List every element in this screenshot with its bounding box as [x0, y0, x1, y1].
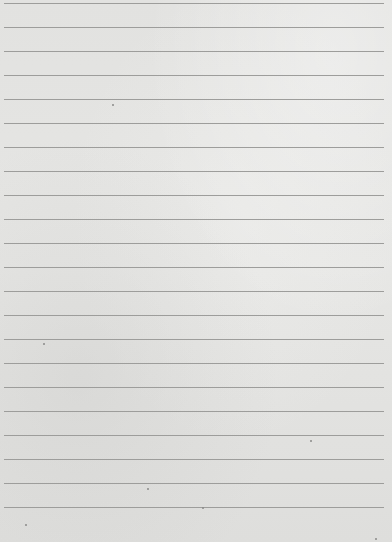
paper-speck: [310, 440, 312, 442]
paper-speck: [202, 507, 204, 509]
ruled-line: [4, 195, 384, 196]
paper-speck: [112, 104, 114, 106]
lined-paper: [0, 0, 392, 542]
ruled-line: [4, 507, 384, 508]
ruled-line: [4, 243, 384, 244]
ruled-line: [4, 435, 384, 436]
ruled-line: [4, 387, 384, 388]
ruled-line: [4, 315, 384, 316]
ruled-line: [4, 147, 384, 148]
ruled-line: [4, 291, 384, 292]
ruled-line: [4, 267, 384, 268]
ruled-line: [4, 75, 384, 76]
ruled-line: [4, 27, 384, 28]
ruled-line: [4, 171, 384, 172]
ruled-line: [4, 339, 384, 340]
ruled-line: [4, 363, 384, 364]
paper-speck: [25, 524, 27, 526]
ruled-line: [4, 411, 384, 412]
paper-speck: [147, 488, 149, 490]
ruled-line: [4, 483, 384, 484]
ruled-line: [4, 219, 384, 220]
ruled-line: [4, 99, 384, 100]
paper-speck: [375, 538, 377, 540]
ruled-line: [4, 459, 384, 460]
ruled-line: [4, 3, 384, 4]
ruled-line: [4, 51, 384, 52]
ruled-line: [4, 123, 384, 124]
paper-speck: [43, 343, 45, 345]
